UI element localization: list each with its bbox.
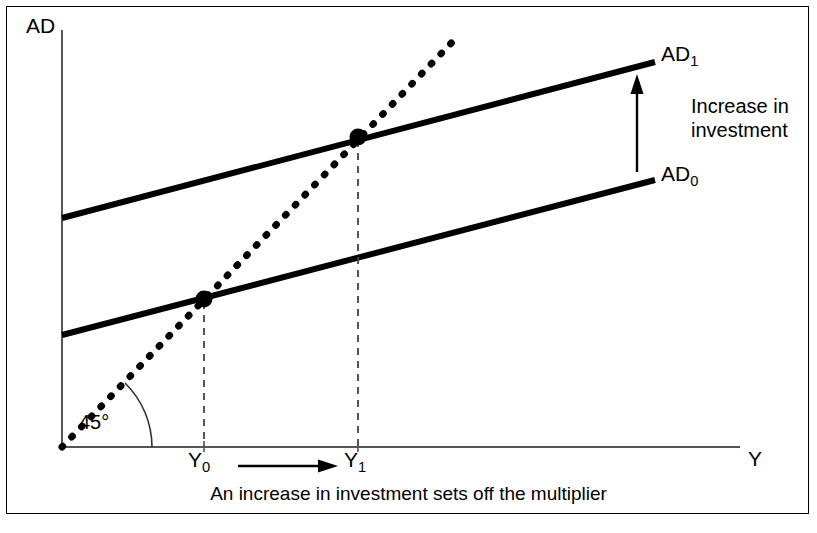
curve-label-ad0-base: AD <box>661 162 690 185</box>
tick-label-y0-subscript: 0 <box>202 459 210 475</box>
tick-label-y1-base: Y <box>344 448 358 471</box>
investment-shift-annotation-line1: Increase in <box>691 95 789 119</box>
tick-label-y1-subscript: 1 <box>358 459 366 475</box>
angle-label: 45° <box>79 411 109 435</box>
x-axis-label: Y <box>748 447 762 472</box>
equilibrium-point-e0 <box>196 291 213 308</box>
output-increase-arrow-head <box>318 460 338 473</box>
tick-label-y0: Y0 <box>188 448 210 477</box>
curve-label-ad0: AD0 <box>661 162 698 191</box>
diagram-canvas <box>0 0 817 533</box>
curve-label-ad1: AD1 <box>661 42 698 71</box>
curve-label-ad0-subscript: 0 <box>690 173 698 189</box>
curve-label-ad1-subscript: 1 <box>690 53 698 69</box>
equilibrium-point-e1 <box>350 129 367 146</box>
forty-five-degree-line <box>62 34 460 447</box>
tick-label-y0-base: Y <box>188 448 202 471</box>
y-axis-label: AD <box>26 14 55 39</box>
investment-shift-annotation-line2: investment <box>691 119 789 143</box>
curve-label-ad1-base: AD <box>661 42 690 65</box>
investment-shift-annotation: Increase in investment <box>691 95 789 142</box>
tick-label-y1: Y1 <box>344 448 366 477</box>
angle-arc <box>125 383 152 447</box>
figure-root: AD Y AD1 AD0 Increase in investment 45° … <box>0 0 817 533</box>
figure-caption: An increase in investment sets off the m… <box>0 483 817 505</box>
investment-shift-arrow-head <box>631 74 644 94</box>
